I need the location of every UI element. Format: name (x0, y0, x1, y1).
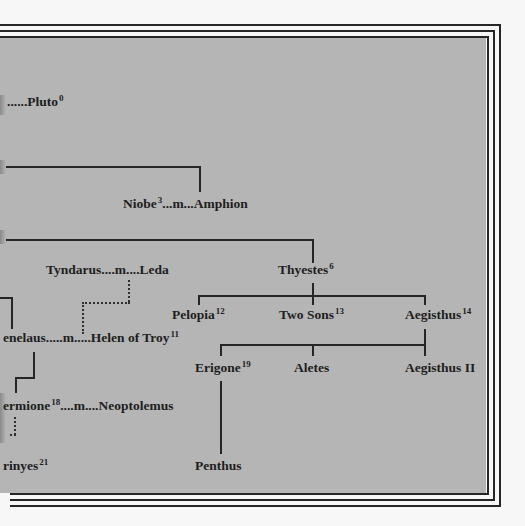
frame-inner-top (0, 36, 489, 38)
node-erinyes: rinyes21 (3, 458, 48, 475)
branch-line (312, 344, 314, 356)
name: Pluto (27, 94, 58, 109)
edge-shadow (0, 230, 6, 244)
branch-line (220, 381, 222, 454)
branch-line (220, 344, 426, 346)
frame-outer-bottom (10, 505, 501, 507)
branch-line (6, 239, 314, 241)
branch-line (15, 377, 35, 379)
name: Tyndarus (46, 262, 101, 277)
branch-line (312, 295, 314, 305)
name: Erigone (195, 360, 241, 375)
footnote-ref: 11 (171, 329, 180, 339)
node-menelaus-helen: enelaus.....m.....Helen of Troy11 (3, 330, 179, 347)
branch-line (11, 297, 13, 329)
dotted-descent-line (14, 417, 16, 435)
marriage-connector: ...m... (162, 196, 194, 211)
frame-inner-bottom (10, 493, 489, 495)
marriage-connector: ....m.... (60, 398, 98, 413)
frame-middle-right (493, 30, 495, 501)
marriage-connector: ....m.... (101, 262, 139, 277)
footnote-ref: 0 (59, 93, 64, 103)
name: Niobe (123, 196, 157, 211)
dotted-descent-line (10, 434, 16, 436)
branch-line (312, 239, 314, 263)
node-pelopia: Pelopia12 (172, 307, 225, 324)
name: Aletes (294, 360, 329, 375)
name: Penthus (195, 458, 242, 473)
footnote-ref: 3 (158, 195, 163, 205)
node-erigone: Erigone19 (195, 360, 251, 377)
branch-line (424, 295, 426, 305)
dotted-descent-line (128, 280, 130, 302)
branch-line (33, 352, 35, 378)
node-aegisthus: Aegisthus14 (405, 307, 471, 324)
marriage-connector: .....m..... (46, 330, 91, 345)
branch-line (198, 295, 200, 305)
footnote-ref: 18 (51, 397, 60, 407)
node-tyndarus-leda: Tyndarus....m....Leda (46, 262, 169, 278)
node-niobe-amphion: Niobe3...m...Amphion (123, 196, 248, 213)
name: Thyestes (278, 262, 328, 277)
spouse: Amphion (194, 196, 248, 211)
name: ermione (3, 398, 50, 413)
page: ......Pluto0 Niobe3...m...Amphion Tyndar… (0, 0, 525, 526)
frame-outer-right (499, 24, 501, 507)
frame-middle-bottom (10, 499, 495, 501)
spouse: Neoptolemus (98, 398, 173, 413)
node-aegisthus-ii: Aegisthus II (405, 360, 475, 376)
spouse: Leda (140, 262, 169, 277)
spouse: Helen of Troy (91, 330, 170, 345)
branch-line (220, 344, 222, 356)
name: enelaus (3, 330, 46, 345)
name: Pelopia (172, 307, 215, 322)
footnote-ref: 21 (39, 457, 48, 467)
node-thyestes: Thyestes6 (278, 262, 334, 279)
node-penthus: Penthus (195, 458, 242, 474)
branch-line (199, 166, 201, 192)
name: rinyes (3, 458, 38, 473)
dotted-descent-line (82, 302, 130, 304)
footnote-ref: 19 (242, 359, 251, 369)
branch-line (6, 166, 201, 168)
node-pluto: ......Pluto0 (7, 94, 64, 111)
node-two-sons: Two Sons13 (279, 307, 344, 324)
frame-outer-top (0, 24, 501, 26)
footnote-ref: 13 (335, 306, 344, 316)
footnote-ref: 6 (329, 261, 334, 271)
branch-line (15, 377, 17, 393)
footnote-ref: 12 (216, 306, 225, 316)
footnote-ref: 14 (462, 306, 471, 316)
dotted-connector: ...... (7, 94, 27, 109)
branch-line (424, 329, 426, 345)
name: Two Sons (279, 307, 334, 322)
edge-shadow (0, 95, 6, 115)
node-aletes: Aletes (294, 360, 329, 376)
name: Aegisthus II (405, 360, 475, 375)
branch-line (424, 344, 426, 356)
frame-middle-top (0, 30, 495, 32)
node-hermione-neoptolemus: ermione18....m....Neoptolemus (3, 398, 173, 415)
name: Aegisthus (405, 307, 461, 322)
frame-inner-right (487, 36, 489, 495)
